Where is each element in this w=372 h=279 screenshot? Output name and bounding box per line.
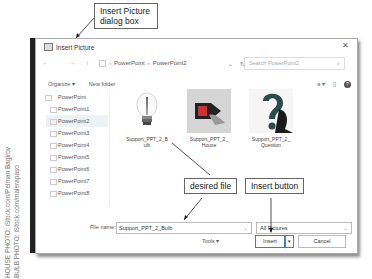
folder-icon — [50, 179, 57, 185]
breadcrumb-powerpoint2[interactable]: PowerPoint2 — [153, 60, 187, 66]
sidebar-item-powerpoint5[interactable]: PowerPoint5 — [46, 151, 108, 163]
sidebar-item-powerpoint1[interactable]: PowerPoint1 — [46, 103, 108, 115]
help-icon[interactable]: ? — [344, 81, 351, 88]
question-thumbnail — [249, 89, 293, 133]
sidebar-item-powerpoint2[interactable]: PowerPoint2 — [46, 115, 108, 127]
new-folder-button[interactable]: New folder — [89, 81, 115, 87]
folder-icon — [99, 60, 106, 67]
question-mark-icon — [249, 89, 293, 133]
file-item-house[interactable]: Support_PPT_2_ House — [183, 89, 235, 148]
search-input[interactable]: Search PowerPoint2 ⌕ — [244, 57, 345, 70]
folder-icon — [50, 167, 57, 173]
cancel-button[interactable]: Cancel — [298, 235, 346, 248]
navigation-pane: PowerPoint PowerPoint1 PowerPoint2 Power… — [46, 91, 108, 227]
search-placeholder: Search PowerPoint2 — [249, 60, 299, 66]
folder-icon — [50, 155, 57, 161]
search-icon: ⌕ — [337, 58, 340, 69]
house-icon — [187, 89, 231, 133]
dialog-titlebar: Insert Picture — [44, 43, 94, 51]
file-item-question[interactable]: Support_PPT_2_ Question — [245, 89, 297, 148]
chevron-down-icon: ⌄ — [343, 223, 348, 233]
toolbar: Organize ▾ New folder ≡ ▾ ▯ ? — [48, 79, 351, 89]
sidebar-item-powerpoint4[interactable]: PowerPoint4 — [46, 139, 108, 151]
forward-arrow-icon[interactable]: → — [70, 60, 76, 66]
up-arrow-icon[interactable]: ↑ — [86, 60, 89, 66]
file-list: Support_PPT_2_B ulb Support_PPT_2_ House — [121, 89, 297, 148]
sidebar-item-powerpoint3[interactable]: PowerPoint3 — [46, 127, 108, 139]
house-thumbnail — [187, 89, 231, 133]
folder-icon — [50, 119, 57, 125]
file-name-input[interactable]: Support_PPT_2_Bulb ⌄ — [116, 222, 252, 234]
sidebar-item-powerpoint8[interactable]: PowerPoint8 — [46, 187, 108, 199]
folder-icon — [50, 191, 57, 197]
callout-desired-file: desired file — [184, 178, 237, 194]
view-options-icon[interactable]: ≡ ▾ — [317, 81, 325, 87]
breadcrumb-powerpoint[interactable]: PowerPoint — [114, 60, 145, 66]
sidebar-item-powerpoint[interactable]: PowerPoint — [46, 91, 108, 103]
insert-picture-dialog: Insert Picture ✕ ← → ↑ › PowerPoint › Po… — [35, 38, 358, 254]
address-dropdown-icon[interactable]: ⌄ — [228, 60, 233, 67]
photo-credits: HOUSE PHOTO: iStock.com/Pelman Bagirov B… — [0, 150, 30, 279]
folder-icon — [50, 107, 57, 113]
insert-dropdown-button[interactable]: ▾ — [285, 235, 294, 248]
tools-menu[interactable]: Tools ▾ — [202, 238, 219, 244]
navigation-bar: ← → ↑ › PowerPoint › PowerPoint2 ⌄ ↻ Sea… — [42, 57, 351, 69]
callout-insert-button: Insert button — [245, 178, 304, 194]
folder-icon — [50, 131, 57, 137]
pane-divider — [109, 91, 110, 206]
breadcrumb-separator: › — [148, 60, 150, 66]
dialog-title: Insert Picture — [56, 44, 94, 51]
bulb-photo-credit: BULB PHOTO: iStock.com/malerapaso — [13, 165, 20, 278]
lightbulb-icon — [125, 89, 169, 133]
organize-button[interactable]: Organize ▾ — [48, 81, 75, 87]
sidebar-item-powerpoint6[interactable]: PowerPoint6 — [46, 163, 108, 175]
chevron-down-icon[interactable]: ⌄ — [243, 223, 248, 233]
insert-button[interactable]: Insert — [255, 235, 285, 248]
file-item-bulb[interactable]: Support_PPT_2_B ulb — [121, 89, 173, 148]
close-button[interactable]: ✕ — [342, 41, 349, 50]
preview-pane-icon[interactable]: ▯ — [333, 81, 336, 87]
folder-icon — [50, 143, 57, 149]
back-arrow-icon[interactable]: ← — [42, 60, 48, 66]
breadcrumb-separator: › — [109, 60, 111, 66]
address-bar[interactable]: › PowerPoint › PowerPoint2 — [99, 60, 190, 67]
bulb-thumbnail — [125, 89, 169, 133]
folder-icon — [45, 95, 52, 101]
sidebar-item-powerpoint7[interactable]: PowerPoint7 — [46, 175, 108, 187]
callout-dialog: Insert Picture dialog box — [94, 3, 158, 29]
house-photo-credit: HOUSE PHOTO: iStock.com/Pelman Bagirov — [4, 147, 11, 278]
file-name-label: File name: — [90, 224, 116, 230]
picture-icon — [44, 43, 53, 51]
file-type-select[interactable]: All Pictures ⌄ — [256, 222, 352, 234]
